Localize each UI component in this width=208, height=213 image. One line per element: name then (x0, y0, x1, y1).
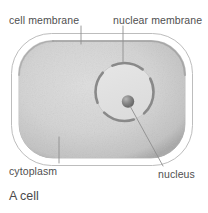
label-cell-membrane: cell membrane (9, 14, 79, 26)
figure-caption: A cell (9, 189, 39, 204)
label-cytoplasm: cytoplasm (9, 165, 57, 177)
label-nuclear-membrane: nuclear membrane (113, 14, 202, 26)
nucleolus-shape (122, 95, 134, 107)
cell-diagram-graphic (0, 0, 208, 213)
cell-diagram: cell membrane nuclear membrane cytoplasm… (0, 0, 208, 213)
label-nucleus: nucleus (158, 168, 195, 180)
